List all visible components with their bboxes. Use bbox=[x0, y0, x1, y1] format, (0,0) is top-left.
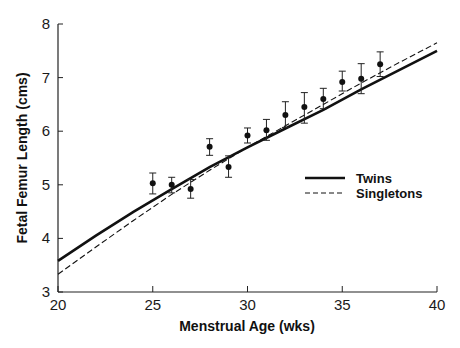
x-tick-label: 35 bbox=[334, 296, 351, 313]
point-marker bbox=[226, 164, 232, 170]
data-point bbox=[339, 71, 346, 91]
axes: 2025303540 345678 bbox=[42, 15, 446, 313]
y-axis-title: Fetal Femur Length (cms) bbox=[14, 72, 30, 243]
x-tick-label: 25 bbox=[144, 296, 161, 313]
fit-curves bbox=[58, 43, 437, 274]
singletons-curve bbox=[58, 43, 437, 274]
legend-singletons-label: Singletons bbox=[356, 186, 422, 201]
x-tick-label: 30 bbox=[239, 296, 256, 313]
point-marker bbox=[377, 61, 383, 67]
point-marker bbox=[188, 186, 194, 192]
point-marker bbox=[245, 132, 251, 138]
legend: Twins Singletons bbox=[305, 171, 422, 201]
data-point bbox=[149, 173, 156, 194]
y-ticks: 345678 bbox=[42, 15, 63, 300]
point-marker bbox=[150, 180, 156, 186]
data-point bbox=[282, 102, 289, 128]
point-marker bbox=[207, 144, 213, 150]
x-ticks: 2025303540 bbox=[50, 286, 446, 313]
y-tick-label: 3 bbox=[42, 283, 50, 300]
y-tick-label: 5 bbox=[42, 176, 50, 193]
point-marker bbox=[320, 96, 326, 102]
y-tick-label: 6 bbox=[42, 122, 50, 139]
data-point bbox=[320, 88, 327, 108]
x-tick-label: 20 bbox=[50, 296, 67, 313]
data-point bbox=[244, 128, 251, 143]
point-marker bbox=[169, 182, 175, 188]
x-tick-label: 40 bbox=[429, 296, 446, 313]
y-tick-label: 7 bbox=[42, 69, 50, 86]
point-marker bbox=[339, 79, 345, 85]
data-point bbox=[206, 139, 213, 156]
point-marker bbox=[301, 104, 307, 110]
point-marker bbox=[263, 127, 269, 133]
y-tick-label: 8 bbox=[42, 15, 50, 32]
legend-twins-label: Twins bbox=[356, 171, 392, 186]
x-axis-title: Menstrual Age (wks) bbox=[179, 318, 315, 334]
point-marker bbox=[282, 112, 288, 118]
femur-length-chart: 2025303540 345678 Twins Singletons Menst… bbox=[0, 0, 460, 348]
y-tick-label: 4 bbox=[42, 229, 50, 246]
twins-curve bbox=[58, 51, 437, 261]
point-marker bbox=[358, 76, 364, 82]
data-point bbox=[187, 179, 194, 198]
data-points bbox=[149, 52, 383, 198]
data-point bbox=[377, 52, 384, 77]
